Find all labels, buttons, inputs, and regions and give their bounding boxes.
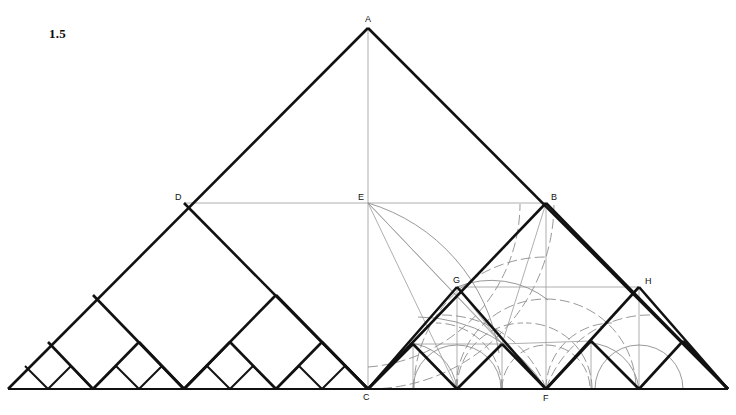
- vertex-label-B: B: [551, 192, 557, 202]
- vertex-label-D: D: [175, 192, 182, 202]
- figure-svg: .thick { stroke:#111; stroke-width:2.6; …: [0, 0, 736, 415]
- vertex-label-C: C: [363, 392, 370, 402]
- figure-panel: 1.5 .thick { stroke:#111; stroke-width:2…: [0, 0, 736, 415]
- construction-lines: [184, 28, 639, 389]
- vertex-label-H: H: [645, 276, 652, 286]
- vertex-label-A: A: [365, 14, 371, 24]
- vertex-label-F: F: [543, 393, 549, 403]
- vertex-label-E: E: [358, 192, 364, 202]
- fractal-squares: [25, 203, 728, 389]
- vertex-label-G: G: [453, 275, 460, 285]
